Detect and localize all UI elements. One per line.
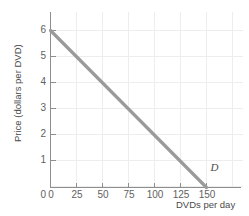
demand-curve-figure: 6 5 4 3 2 1 0 0 25 50 75 100 125 150 Pri… [0, 0, 249, 216]
x-tick-label-25: 25 [65, 190, 89, 200]
y-tick-label-4: 4 [30, 77, 46, 87]
x-axis-title: DVDs per day [176, 200, 235, 210]
demand-curve-label: D [211, 162, 219, 173]
y-tick-label-5: 5 [30, 51, 46, 61]
y-tick-label-3: 3 [30, 103, 46, 113]
x-tick-label-75: 75 [117, 190, 141, 200]
y-tick-label-1: 1 [30, 155, 46, 165]
y-axis-title: Price (dollars per DVD) [13, 44, 23, 142]
y-tick-marks [51, 31, 56, 161]
x-tick-label-0: 0 [39, 190, 63, 200]
y-tick-label-6: 6 [30, 25, 46, 35]
x-tick-label-50: 50 [91, 190, 115, 200]
y-tick-label-2: 2 [30, 129, 46, 139]
x-tick-label-100: 100 [143, 190, 167, 200]
